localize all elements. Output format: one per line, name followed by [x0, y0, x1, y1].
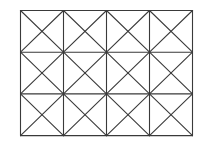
grid-lines	[21, 11, 193, 136]
grid-diagram	[0, 0, 203, 146]
